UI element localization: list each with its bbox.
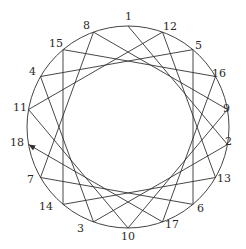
label-14: 14 (39, 200, 53, 213)
label-3: 3 (77, 222, 84, 235)
label-9: 9 (223, 102, 230, 115)
label-15: 15 (49, 37, 63, 50)
label-13: 13 (217, 172, 231, 185)
label-12: 12 (163, 20, 177, 33)
label-17: 17 (165, 218, 179, 231)
label-5: 5 (195, 39, 202, 52)
label-1: 1 (125, 10, 132, 23)
label-11: 11 (13, 101, 27, 114)
outer-circle (27, 26, 229, 228)
path-edges (29, 26, 228, 228)
label-8: 8 (83, 19, 90, 32)
label-7: 7 (27, 173, 34, 186)
label-18: 18 (10, 136, 24, 149)
label-6: 6 (197, 202, 204, 215)
label-2: 2 (225, 135, 232, 148)
label-10: 10 (121, 230, 135, 243)
star-diagram: 1 12 5 16 9 2 13 6 17 10 3 14 7 18 11 4 … (0, 0, 246, 249)
label-16: 16 (212, 67, 226, 80)
label-4: 4 (29, 65, 36, 78)
